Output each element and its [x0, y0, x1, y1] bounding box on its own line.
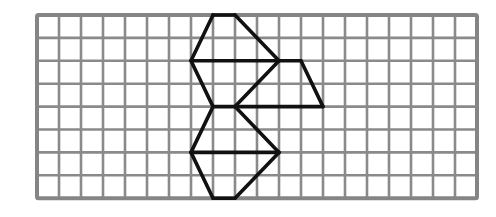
grid-diagram — [0, 0, 496, 217]
